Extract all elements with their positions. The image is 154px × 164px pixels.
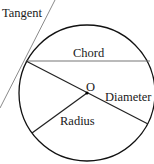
center-label: O bbox=[86, 80, 95, 94]
circle-diagram: Tangent Chord O Diameter Radius bbox=[0, 0, 154, 164]
diameter-label: Diameter bbox=[105, 90, 152, 104]
tangent-label: Tangent bbox=[2, 6, 43, 20]
radius-label: Radius bbox=[60, 114, 95, 128]
chord-label: Chord bbox=[73, 46, 105, 60]
